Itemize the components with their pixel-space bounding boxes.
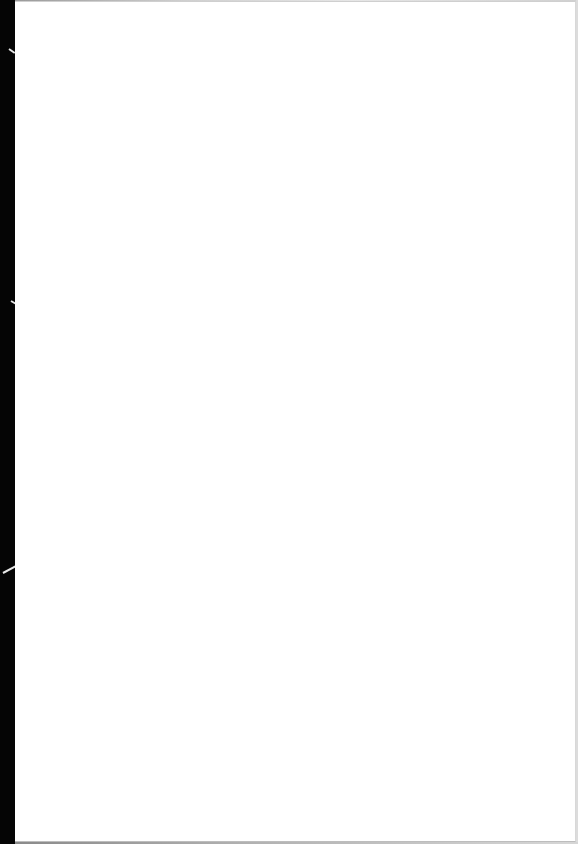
binding-edge	[0, 0, 15, 844]
scanned-document	[0, 0, 578, 844]
blank-page	[15, 1, 576, 842]
